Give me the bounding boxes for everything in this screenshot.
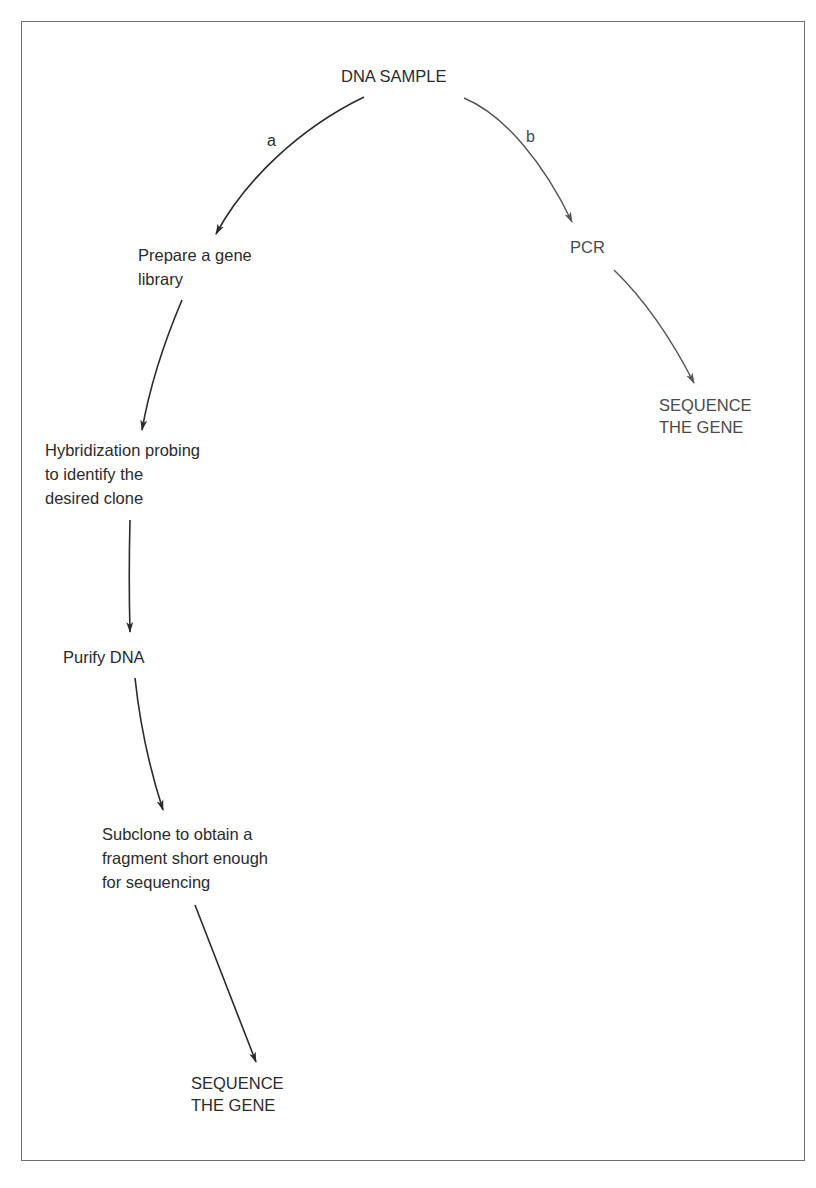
arrow-prepare-to-hybridization xyxy=(142,300,182,430)
arrow-root-to-pcr xyxy=(464,98,572,222)
node-subclone: Subclone to obtain a fragment short enou… xyxy=(102,822,268,894)
arrow-purify-to-subclone xyxy=(135,678,163,810)
node-prepare-library: Prepare a gene library xyxy=(138,243,252,291)
node-sequence-gene-b: SEQUENCE THE GENE xyxy=(659,394,752,438)
node-sequence-gene-a: SEQUENCE THE GENE xyxy=(191,1072,284,1116)
arrow-subclone-to-sequence xyxy=(195,905,256,1062)
node-hybridization-probing: Hybridization probing to identify the de… xyxy=(45,438,200,510)
arrow-pcr-to-sequence xyxy=(614,270,694,383)
node-dna-sample: DNA SAMPLE xyxy=(341,64,446,88)
node-pcr: PCR xyxy=(570,235,605,259)
branch-label-b: b xyxy=(526,127,535,147)
arrow-hybridization-to-purify xyxy=(129,520,130,632)
arrows-layer xyxy=(0,0,816,1188)
branch-label-a: a xyxy=(267,131,276,151)
arrow-root-to-prepare xyxy=(216,97,364,234)
node-purify-dna: Purify DNA xyxy=(63,645,145,669)
